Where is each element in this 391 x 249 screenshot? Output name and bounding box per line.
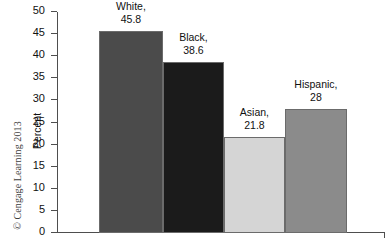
bar-label-category: White, bbox=[79, 0, 182, 13]
bar-label-category: Black, bbox=[143, 31, 243, 44]
y-tick-label: 45 bbox=[33, 26, 45, 38]
bar-asian bbox=[224, 137, 285, 233]
y-tick-label: 35 bbox=[33, 70, 45, 82]
bar-label-hispanic: Hispanic,28 bbox=[265, 78, 366, 104]
y-tick-label: 10 bbox=[33, 181, 45, 193]
bar-chart: © Cengage Learning 2013 Percent 50454035… bbox=[0, 0, 391, 249]
bar-label-value: 38.6 bbox=[143, 44, 243, 57]
bar-black bbox=[163, 62, 224, 233]
y-tick-label: 5 bbox=[39, 203, 45, 215]
y-tick-label: 50 bbox=[33, 4, 45, 16]
plot-area: White,45.8Black,38.6Asian,21.8Hispanic,2… bbox=[57, 12, 385, 233]
bar-hispanic bbox=[285, 109, 347, 233]
y-tick-label: 15 bbox=[33, 159, 45, 171]
copyright-credit: © Cengage Learning 2013 bbox=[12, 111, 23, 241]
y-tick-label: 0 bbox=[39, 225, 45, 237]
y-tick-label: 30 bbox=[33, 92, 45, 104]
bar-label-black: Black,38.6 bbox=[143, 31, 243, 57]
y-tick-label: 25 bbox=[33, 115, 45, 127]
bar-label-value: 45.8 bbox=[79, 13, 182, 26]
bar-white bbox=[99, 31, 163, 233]
y-tick-label: 40 bbox=[33, 48, 45, 60]
y-tick-label: 20 bbox=[33, 137, 45, 149]
bar-label-category: Hispanic, bbox=[265, 78, 366, 91]
bar-label-white: White,45.8 bbox=[79, 0, 182, 26]
bar-label-value: 28 bbox=[265, 91, 366, 104]
